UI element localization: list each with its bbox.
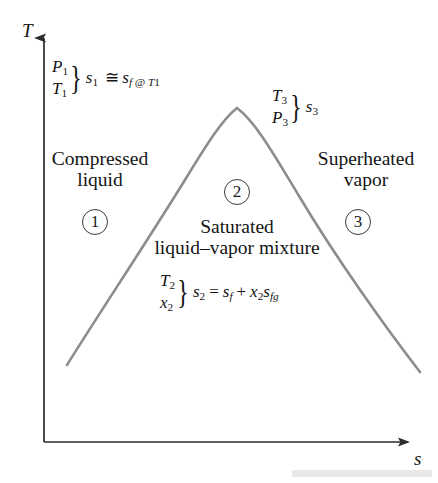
state-3-equation: T3 P3 } s3	[272, 86, 318, 129]
region-2-line-2: liquid–vapor mixture	[122, 237, 352, 258]
state-3-given-vars: T3 P3	[272, 86, 288, 129]
state-1-relation-symbol: ≅	[102, 68, 122, 87]
state-2-result: s2=sf+x2sfg	[192, 283, 279, 302]
region-1-line-1: Compressed	[52, 148, 148, 169]
state-3-given-brace: T3 P3 } s3	[272, 86, 318, 129]
region-1-line-2: liquid	[40, 169, 160, 190]
region-3-line-1: Superheated	[318, 148, 414, 169]
state-2-given-temperature: T2	[160, 271, 175, 293]
state-1-given-brace: P1 T1 } s1 ≅sf @ T1	[52, 57, 160, 100]
state-1-given-temperature: T1	[52, 79, 67, 101]
state-1-given-vars: P1 T1	[52, 57, 68, 100]
state-3-given-temperature: T3	[272, 86, 287, 108]
state-1-brace-glyph: }	[70, 63, 81, 93]
region-3-line-2: vapor	[298, 169, 434, 190]
region-label-saturated-mixture: Saturated liquid–vapor mixture	[122, 216, 352, 258]
state-marker-2: 2	[224, 179, 250, 205]
state-2-equation: T2 x2 } s2=sf+x2sfg	[160, 271, 279, 314]
x-axis-label: s	[414, 449, 421, 470]
region-2-line-1: Saturated	[200, 216, 274, 237]
ts-diagram: T s P1 T1 } s1 ≅sf @ T1 Compressed liqui…	[0, 0, 438, 483]
state-marker-1: 1	[82, 209, 108, 235]
page-edge-artifact	[292, 470, 432, 477]
state-3-brace-glyph: }	[290, 92, 301, 122]
y-axis-label: T	[22, 21, 33, 42]
state-2-given-quality: x2	[160, 293, 173, 315]
state-3-result: s3	[305, 98, 318, 117]
state-2-equals-symbol: =	[205, 282, 223, 301]
state-1-equation: P1 T1 } s1 ≅sf @ T1	[52, 57, 160, 100]
state-2-given-brace: T2 x2 } s2=sf+x2sfg	[160, 271, 279, 314]
state-2-plus-symbol: +	[233, 282, 251, 301]
state-1-given-pressure: P1	[52, 57, 68, 79]
state-2-given-vars: T2 x2	[160, 271, 175, 314]
state-2-brace-glyph: }	[177, 277, 188, 307]
region-label-compressed-liquid: Compressed liquid	[40, 148, 160, 190]
region-label-superheated-vapor: Superheated vapor	[298, 148, 434, 190]
state-1-result: s1 ≅sf @ T1	[85, 69, 160, 88]
state-3-given-pressure: P3	[272, 108, 288, 130]
